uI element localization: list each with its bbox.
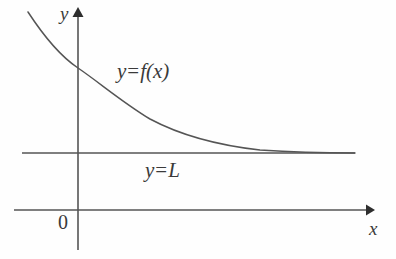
curve-label-rhs: f(x) (140, 59, 169, 83)
limit-asymptote-figure: y x 0 y=f(x) y=L (0, 0, 396, 259)
x-axis-arrowhead (366, 205, 375, 216)
curve-label-lhs: y (117, 59, 126, 83)
function-curve (28, 12, 355, 153)
asymptote-label-equals: = (154, 158, 168, 182)
curve-equation-label: y=f(x) (117, 61, 169, 82)
asymptote-equation-label: y=L (145, 160, 180, 181)
asymptote-label-rhs: L (168, 158, 180, 182)
origin-label: 0 (58, 212, 68, 232)
curve-label-equals: = (126, 59, 140, 83)
x-axis-label: x (369, 219, 377, 238)
y-axis-label: y (60, 4, 68, 23)
asymptote-label-lhs: y (145, 158, 154, 182)
y-axis (73, 7, 84, 250)
y-axis-arrowhead (73, 7, 84, 17)
x-axis (14, 205, 375, 216)
